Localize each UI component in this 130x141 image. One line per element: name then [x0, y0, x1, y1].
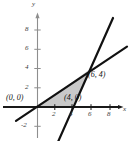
annotation-intersection: (6, 4): [88, 71, 105, 79]
y-tick-label-6: 6: [25, 45, 29, 52]
y-tick-label-2: 2: [25, 84, 29, 91]
x-tick-label-8: 8: [107, 111, 111, 118]
y-axis-arrow: [35, 13, 39, 19]
x-tick-label-4: 4: [69, 111, 73, 118]
x-tick-label-2: 2: [52, 111, 56, 118]
y-tick-label-neg2: -2: [21, 122, 27, 129]
x-tick-label-6: 6: [88, 111, 92, 118]
graph-figure: y x 8 6 4 2 -2 2 4 6 8 (0, 0) (4, 0) (6,…: [0, 0, 130, 141]
y-tick-label-8: 8: [25, 26, 29, 33]
y-axis-label: y: [32, 1, 35, 8]
x-axis-label: x: [123, 106, 126, 113]
annotation-x-intercept: (4, 0): [64, 94, 81, 102]
y-tick-label-4: 4: [25, 64, 29, 71]
coordinate-plot: [0, 0, 130, 141]
annotation-origin: (0, 0): [6, 94, 23, 102]
